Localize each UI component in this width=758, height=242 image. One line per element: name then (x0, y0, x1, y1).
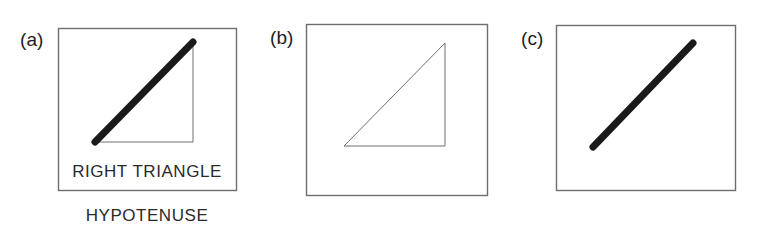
figure-root: (a) RIGHT TRIANGLE HYPOTENUSE (b) (c) (0, 0, 758, 242)
panel-c-graphic (510, 0, 758, 242)
panel-b-box (307, 25, 488, 196)
panel-a-caption-inside: RIGHT TRIANGLE (58, 163, 236, 180)
panel-b: (b) (260, 0, 510, 242)
panel-a-caption-below: HYPOTENUSE (58, 207, 236, 224)
panel-c-box (557, 26, 736, 191)
panel-a: (a) RIGHT TRIANGLE HYPOTENUSE (0, 0, 260, 242)
panel-b-graphic (260, 0, 510, 242)
panel-c: (c) (510, 0, 758, 242)
